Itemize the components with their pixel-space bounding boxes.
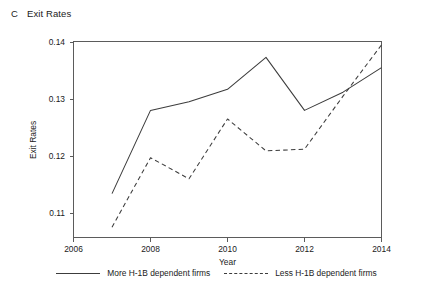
axes: 0.14 0.13 0.12 0.11 Exit Rates 2006 2008… — [28, 37, 391, 267]
legend-label: Less H-1B dependent firms — [275, 268, 376, 278]
plot-frame — [74, 42, 382, 238]
y-tick-label: 0.14 — [49, 37, 66, 47]
y-axis-title: Exit Rates — [28, 121, 38, 159]
y-tick-label: 0.13 — [49, 94, 66, 104]
y-tick-label: 0.12 — [49, 151, 66, 161]
x-tick-label: 2006 — [64, 244, 83, 254]
x-tick-label: 2010 — [218, 244, 237, 254]
x-axis-title: Year — [219, 257, 236, 267]
series-line-less-dependent — [112, 45, 382, 227]
chart-legend: More H-1B dependent firms Less H-1B depe… — [0, 268, 433, 278]
legend-swatch-solid-icon — [56, 273, 100, 274]
line-chart: 0.14 0.13 0.12 0.11 Exit Rates 2006 2008… — [0, 0, 433, 290]
legend-label: More H-1B dependent firms — [107, 268, 210, 278]
x-tick-label: 2008 — [141, 244, 160, 254]
series-group — [112, 45, 382, 227]
y-tick-label: 0.11 — [49, 208, 65, 218]
legend-item-more-dependent: More H-1B dependent firms — [56, 268, 210, 278]
series-line-more-dependent — [112, 57, 382, 193]
legend-item-less-dependent: Less H-1B dependent firms — [224, 268, 376, 278]
exit-rates-figure: C Exit Rates 0.14 0.13 0.12 0.11 Exit Ra… — [0, 0, 433, 290]
legend-swatch-dashed-icon — [224, 273, 268, 274]
x-tick-label: 2012 — [295, 244, 314, 254]
x-tick-label: 2014 — [372, 244, 391, 254]
